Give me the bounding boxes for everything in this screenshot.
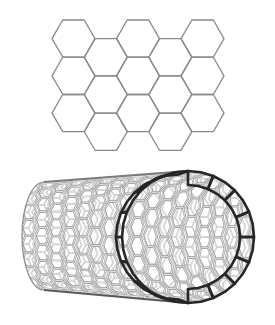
tube-hexagon bbox=[235, 176, 249, 189]
tube-hexagon bbox=[242, 298, 257, 305]
tube-hexagon bbox=[268, 258, 274, 277]
tube-hexagon bbox=[225, 172, 239, 182]
tube-hexagon bbox=[235, 286, 249, 299]
tube-hexagon bbox=[248, 292, 263, 302]
tube-hexagon bbox=[9, 212, 23, 227]
tube-hexagon bbox=[269, 170, 274, 177]
tube-hexagon bbox=[14, 282, 29, 288]
tube-hexagon bbox=[253, 206, 266, 226]
tube-hexagon bbox=[14, 185, 29, 190]
tube-hexagon bbox=[257, 268, 271, 285]
tube-hexagon bbox=[236, 285, 252, 298]
tube-hexagon bbox=[229, 170, 244, 177]
tube-hexagon bbox=[240, 302, 255, 306]
tube-hexagon bbox=[9, 199, 23, 212]
tube-hexagon bbox=[9, 244, 23, 260]
tube-hexagon bbox=[250, 169, 265, 170]
tube-hexagon bbox=[246, 182, 260, 197]
tube-hexagon bbox=[268, 169, 274, 172]
tube-hexagon bbox=[255, 182, 270, 197]
tube-hexagon bbox=[265, 237, 274, 258]
tube-hexagon bbox=[273, 277, 274, 292]
tube-hexagon bbox=[262, 286, 274, 299]
tube-hexagon bbox=[268, 197, 274, 216]
tube-hexagon bbox=[250, 305, 265, 306]
tube-hexagon bbox=[229, 297, 244, 304]
tube-hexagon bbox=[266, 176, 274, 189]
tube-hexagon bbox=[257, 189, 271, 206]
tube-hexagon bbox=[240, 169, 255, 173]
tube-hexagon bbox=[259, 197, 274, 216]
tube-hexagon bbox=[12, 287, 27, 289]
tube-hexagon bbox=[232, 169, 247, 173]
tube-hexagon bbox=[273, 182, 274, 197]
tube-hexagon bbox=[10, 272, 24, 282]
tube-hexagon bbox=[252, 293, 266, 303]
tube-hexagon bbox=[262, 237, 274, 258]
tube-hexagon bbox=[262, 216, 274, 237]
tube-hexagon bbox=[260, 169, 275, 172]
tube-hexagon bbox=[258, 298, 273, 305]
tube-hexagon bbox=[253, 248, 266, 268]
tube-hexagon bbox=[265, 216, 274, 237]
tube-hexagon bbox=[260, 302, 275, 305]
tube-hexagon bbox=[266, 286, 274, 299]
tube-hexagon bbox=[258, 170, 273, 177]
tube-hexagon bbox=[236, 177, 252, 190]
tube-hexagon bbox=[214, 297, 229, 304]
tube-hexagon bbox=[222, 303, 237, 305]
tube-hexagon bbox=[9, 228, 23, 244]
tube-hexagon bbox=[12, 184, 27, 185]
tube-hexagon bbox=[11, 185, 26, 190]
tube-hexagon bbox=[262, 176, 274, 189]
tube-hexagon bbox=[246, 277, 260, 292]
tube-hexagon bbox=[232, 302, 247, 306]
tube-hexagon bbox=[10, 190, 24, 200]
figure bbox=[0, 0, 274, 325]
ring-hexagon bbox=[116, 237, 127, 262]
tube-hexagon bbox=[268, 302, 274, 305]
tube-hexagon bbox=[272, 189, 274, 206]
tube-hexagon bbox=[222, 169, 237, 171]
tube-hexagon bbox=[9, 259, 23, 272]
tube-hexagon bbox=[252, 172, 266, 182]
carbon-nanotube bbox=[0, 0, 274, 325]
tube-hexagon bbox=[210, 300, 225, 304]
tube-hexagon bbox=[255, 277, 270, 292]
tube-hexagon bbox=[269, 298, 274, 305]
tube-hexagon bbox=[159, 257, 173, 275]
tube-hexagon bbox=[210, 171, 225, 175]
tube-hexagon bbox=[248, 172, 263, 182]
tube-hexagon bbox=[11, 282, 26, 288]
tube-hexagon bbox=[242, 170, 257, 177]
tube-hexagon bbox=[225, 292, 239, 302]
tube-hexagon bbox=[272, 268, 274, 285]
tube-hexagon bbox=[259, 258, 274, 277]
